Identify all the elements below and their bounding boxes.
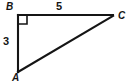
triangle-svg xyxy=(0,0,128,82)
vertex-label-c: C xyxy=(118,11,125,21)
right-angle-marker-icon xyxy=(18,15,27,24)
side-ac-hypotenuse-line xyxy=(18,16,113,72)
vertex-label-b: B xyxy=(6,2,13,12)
triangle-diagram: B C A 5 3 xyxy=(0,0,128,82)
side-length-label-ab: 3 xyxy=(3,36,9,47)
side-length-label-bc: 5 xyxy=(56,1,62,12)
vertex-label-a: A xyxy=(12,73,19,82)
